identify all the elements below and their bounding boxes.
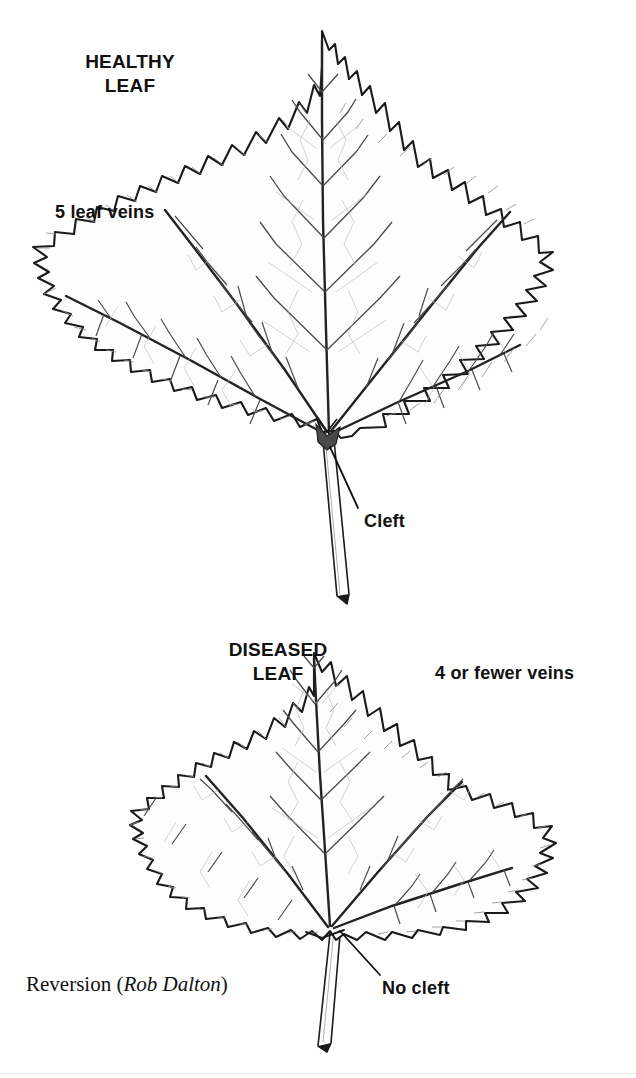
credit-suffix: ) bbox=[221, 972, 228, 996]
diseased-vein-count-label: 4 or fewer veins bbox=[435, 663, 574, 684]
healthy-vein-count-label: 5 leaf veins bbox=[55, 202, 154, 223]
healthy-heading-line2: LEAF bbox=[105, 75, 155, 96]
no-cleft-callout-label: No cleft bbox=[382, 978, 450, 999]
bottom-divider bbox=[0, 1073, 636, 1074]
cleft-callout-label: Cleft bbox=[364, 511, 405, 532]
healthy-heading-line1: HEALTHY bbox=[85, 51, 175, 72]
figure-canvas: HEALTHYLEAF 5 leaf veins Cleft DISEASEDL… bbox=[0, 0, 636, 1078]
diseased-heading-line2: LEAF bbox=[253, 663, 303, 684]
diseased-leaf-illustration bbox=[0, 0, 636, 1078]
credit-prefix: Reversion ( bbox=[26, 972, 123, 996]
diseased-heading-line1: DISEASED bbox=[229, 639, 328, 660]
credit-author-name: Rob Dalton bbox=[123, 972, 220, 996]
diseased-leaf-heading: DISEASEDLEAF bbox=[218, 638, 338, 686]
healthy-leaf-heading: HEALTHYLEAF bbox=[70, 50, 190, 98]
figure-credit: Reversion (Rob Dalton) bbox=[26, 972, 228, 997]
diseased-petiole bbox=[318, 923, 341, 1052]
